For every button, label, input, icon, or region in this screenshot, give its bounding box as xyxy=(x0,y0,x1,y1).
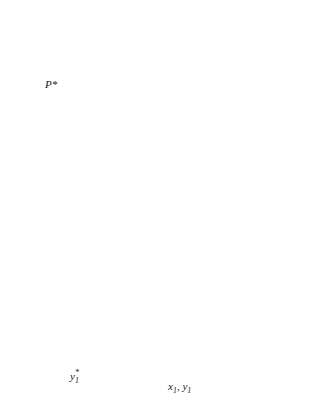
x-axis-label: x1, y1 xyxy=(168,381,191,395)
x-tick-y1star: y1* xyxy=(70,369,79,385)
phase-diagram xyxy=(0,0,318,400)
y-tick-pstar: P* xyxy=(45,79,57,90)
